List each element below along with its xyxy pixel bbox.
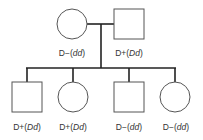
child4-circle bbox=[160, 82, 190, 112]
child3-square bbox=[114, 82, 144, 112]
phenotype: D+ bbox=[13, 122, 24, 132]
child1-square bbox=[12, 82, 42, 112]
mother-circle bbox=[57, 9, 87, 39]
child2-label: D+(Dd) bbox=[59, 122, 87, 132]
phenotype: D− bbox=[59, 48, 70, 58]
phenotype: D+ bbox=[59, 122, 70, 132]
mother-label: D−(dd) bbox=[59, 48, 85, 58]
genotype: dd bbox=[177, 122, 186, 132]
genotype: Dd bbox=[73, 122, 84, 132]
father-square bbox=[114, 9, 144, 39]
child3-label: D−(dd) bbox=[116, 122, 142, 132]
father-label: D+(Dd) bbox=[115, 48, 143, 58]
child2-circle bbox=[58, 82, 88, 112]
genotype: dd bbox=[130, 122, 139, 132]
child4-label: D−(dd) bbox=[163, 122, 189, 132]
genotype: Dd bbox=[27, 122, 38, 132]
phenotype: D+ bbox=[115, 48, 126, 58]
pedigree-chart bbox=[0, 0, 203, 140]
phenotype: D− bbox=[163, 122, 174, 132]
phenotype: D− bbox=[116, 122, 127, 132]
genotype: dd bbox=[73, 48, 82, 58]
child1-label: D+(Dd) bbox=[13, 122, 41, 132]
genotype: Dd bbox=[129, 48, 140, 58]
